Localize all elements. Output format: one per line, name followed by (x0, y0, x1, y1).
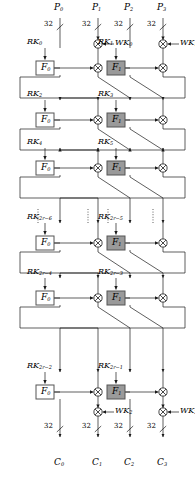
round-function-label-row2-0: F0 (41, 163, 50, 172)
round-xor-row0-1 (159, 64, 167, 72)
round-function-label-row5-1: F1 (112, 387, 121, 396)
round-xor-row2-1 (159, 164, 167, 172)
whitening-key-WK1: WK1 (180, 39, 195, 47)
bitwidth-label-bottom-0: 32 (44, 423, 53, 430)
output-label-C1: C1 (92, 458, 102, 467)
input-label-P2: P2 (124, 3, 133, 12)
round-function-label-row3-1: F1 (112, 238, 121, 247)
bitwidth-label-bottom-1: 32 (82, 423, 91, 430)
round-xor-row4-0 (94, 294, 102, 302)
output-label-C3: C3 (157, 458, 167, 467)
round-xor-row0-0 (94, 64, 102, 72)
round-xor-row2-0 (94, 164, 102, 172)
round-key-RK5: RK5 (98, 138, 113, 146)
bitwidth-label-top-2: 32 (114, 21, 123, 28)
input-label-P3: P3 (157, 3, 166, 12)
output-label-C2: C2 (124, 458, 134, 467)
round-key-RK2r−4: RK2r−4 (27, 268, 52, 276)
whitening-xor-bottom-1 (159, 408, 167, 416)
bitwidth-label-bottom-3: 32 (147, 423, 156, 430)
round-xor-row4-1 (159, 294, 167, 302)
bitwidth-label-bottom-2: 32 (114, 423, 123, 430)
round-key-RK4: RK4 (27, 138, 42, 146)
whitening-xor-top-1 (159, 40, 167, 48)
round-xor-row1-1 (159, 116, 167, 124)
round-function-label-row2-1: F1 (112, 163, 121, 172)
round-function-label-row5-0: F0 (41, 387, 50, 396)
whitening-key-WK2: WK2 (115, 407, 132, 415)
round-key-RK2r−1: RK2r−1 (98, 362, 123, 370)
round-function-label-row1-0: F0 (41, 115, 50, 124)
round-function-label-row4-1: F1 (112, 293, 121, 302)
round-function-label-row3-0: F0 (41, 238, 50, 247)
wire-network (20, 18, 185, 437)
round-function-label-row0-1: F1 (112, 63, 121, 72)
cipher-structure-diagram (0, 0, 195, 481)
round-xor-row3-1 (159, 239, 167, 247)
round-key-RK2r−3: RK2r−3 (98, 268, 123, 276)
round-xor-row5-0 (94, 388, 102, 396)
round-key-RK1: RK1 (98, 38, 113, 46)
round-key-RK2: RK2 (27, 90, 42, 98)
round-key-RK0: RK0 (27, 38, 42, 46)
whitening-key-WK0: WK0 (115, 39, 132, 47)
round-xor-row3-0 (94, 239, 102, 247)
round-key-RK2r−6: RK2r−6 (27, 213, 52, 221)
bitwidth-label-top-1: 32 (82, 21, 91, 28)
bitwidth-label-top-0: 32 (44, 21, 53, 28)
output-label-C0: C0 (54, 458, 64, 467)
round-function-label-row4-0: F0 (41, 293, 50, 302)
round-function-label-row1-1: F1 (112, 115, 121, 124)
round-key-RK3: RK3 (98, 90, 113, 98)
whitening-key-WK3: WK3 (180, 407, 195, 415)
round-xor-row5-1 (159, 388, 167, 396)
round-key-RK2r−5: RK2r−5 (98, 213, 123, 221)
round-xor-row1-0 (94, 116, 102, 124)
round-function-label-row0-0: F0 (41, 63, 50, 72)
round-key-RK2r−2: RK2r−2 (27, 362, 52, 370)
input-label-P1: P1 (92, 3, 101, 12)
input-label-P0: P0 (54, 3, 63, 12)
bitwidth-label-top-3: 32 (147, 21, 156, 28)
whitening-xor-bottom-0 (94, 408, 102, 416)
